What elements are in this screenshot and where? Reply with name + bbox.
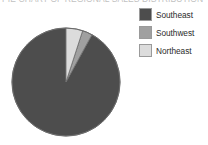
legend-item-southwest[interactable]: Southwest [139, 24, 208, 41]
legend-label-northeast: Northeast [156, 46, 192, 56]
legend-swatch-southeast [139, 8, 152, 21]
legend-label-southeast: Southeast [156, 10, 193, 20]
chart-legend: Southeast Southwest Northeast [139, 6, 208, 60]
pie-chart-svg [11, 21, 121, 143]
legend-swatch-northeast [139, 44, 152, 57]
clipped-title-text: PIE CHART OF REGIONAL SALES DISTRIBUTION [2, 0, 203, 4]
pie-chart [11, 21, 121, 143]
legend-swatch-southwest [139, 26, 152, 39]
legend-item-southeast[interactable]: Southeast [139, 6, 208, 23]
legend-item-northeast[interactable]: Northeast [139, 42, 208, 59]
pie-slices [12, 28, 120, 136]
legend-label-southwest: Southwest [156, 28, 194, 38]
